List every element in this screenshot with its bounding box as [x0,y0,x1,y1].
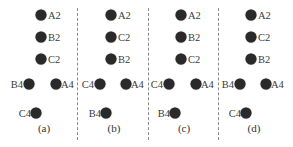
node-dot [241,108,252,119]
node-dot [176,54,187,65]
node-dot [176,32,187,43]
node-label: B2 [188,32,200,43]
panel-caption: (c) [178,122,190,134]
node-label: A2 [258,10,271,21]
node-label: C2 [258,32,270,43]
node-dot [31,108,42,119]
node-label: B4 [222,79,234,90]
node-label: C4 [229,108,241,119]
node-dot [36,32,47,43]
node-label: B4 [158,108,170,119]
panel-caption: (b) [108,122,121,134]
node-dot [246,32,257,43]
panel-a: A2 B2 C2 B4 A4 C4 (a) [0,0,72,147]
node-dot [36,10,47,21]
node-dot [101,108,112,119]
node-label: B2 [258,54,270,65]
node-dot [176,10,187,21]
node-label: B4 [89,108,101,119]
node-dot [235,79,246,90]
node-dot [246,54,257,65]
node-dot [164,79,175,90]
node-dot [121,79,132,90]
node-label: C2 [118,32,130,43]
node-dot [106,54,117,65]
node-label: C2 [48,54,60,65]
node-label: B2 [118,54,130,65]
node-label: C2 [188,54,200,65]
node-dot [95,79,106,90]
panel-caption: (d) [248,122,261,134]
node-label: A4 [271,79,284,90]
node-dot [51,79,62,90]
node-dot [261,79,272,90]
node-label: C4 [19,108,31,119]
node-dot [170,108,181,119]
panel-caption: (a) [38,122,50,134]
node-label: C4 [151,79,163,90]
node-label: B2 [48,32,60,43]
panel-c: A2 B2 C2 C4 A4 B4 (c) [140,0,212,147]
node-dot [106,32,117,43]
node-dot [246,10,257,21]
node-label: A2 [118,10,131,21]
node-label: A2 [188,10,201,21]
node-dot [191,79,202,90]
panel-b: A2 C2 B2 C4 A4 B4 (b) [70,0,142,147]
node-label: C4 [82,79,94,90]
node-dot [36,54,47,65]
node-label: A2 [48,10,61,21]
node-dot [106,10,117,21]
node-label: B4 [11,79,23,90]
node-dot [24,79,35,90]
panel-d: A2 C2 B2 B4 A4 C4 (d) [210,0,282,147]
